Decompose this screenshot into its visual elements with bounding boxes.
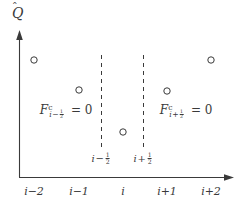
y-axis (16, 30, 23, 177)
flux-subscript: i+12 (169, 110, 183, 119)
data-point (208, 57, 214, 63)
data-point (120, 129, 126, 135)
x-axis (19, 174, 234, 181)
subscript-operator: + (172, 110, 180, 119)
y-axis-label-glyph: ̂ Q (12, 6, 23, 20)
x-axis-arrowhead (224, 174, 234, 181)
data-point (164, 88, 170, 94)
subscript-fraction: 12 (180, 110, 184, 120)
interface-fraction: 12 (105, 152, 110, 165)
y-axis-arrowhead (16, 30, 23, 40)
flux-value: 0 (202, 103, 212, 117)
data-point (31, 57, 37, 63)
fraction-denominator: 2 (60, 115, 64, 120)
data-markers (31, 57, 214, 135)
annotation-right-flux: Fci+12=0 (160, 104, 213, 117)
interface-label-left: i−12 (92, 152, 111, 165)
flux-relation: = (187, 103, 202, 117)
x-tick-label-i-minus-1: i−1 (69, 186, 89, 197)
y-axis-label: ̂ Q (12, 6, 23, 20)
interface-label-right: i+12 (134, 152, 153, 165)
x-tick-label-i-plus-2: i+2 (201, 186, 221, 197)
x-tick-label-i-minus-2: i−2 (24, 186, 44, 197)
flux-relation: = (67, 103, 82, 117)
annotation-left-flux: Fci−12=0 (40, 104, 93, 117)
fraction-denominator: 2 (105, 159, 110, 165)
flux-subscript: i−12 (49, 110, 63, 119)
x-tick-label-i-plus-1: i+1 (157, 186, 177, 197)
x-tick-label-i: i (121, 186, 125, 197)
interface-operator: − (95, 153, 105, 164)
subscript-fraction: 12 (60, 110, 64, 120)
interface-operator: + (137, 153, 147, 164)
flux-schematic-figure: ̂ Q Fci−12=0 Fci+12=0 i−12 i+12 i−2 i−1 … (0, 0, 240, 206)
interface-fraction: 12 (147, 152, 152, 165)
flux-value: 0 (82, 103, 92, 117)
fraction-denominator: 2 (147, 159, 152, 165)
fraction-denominator: 2 (180, 115, 184, 120)
y-axis-label-text: Q (12, 5, 23, 21)
subscript-operator: − (52, 110, 60, 119)
data-point (76, 87, 82, 93)
